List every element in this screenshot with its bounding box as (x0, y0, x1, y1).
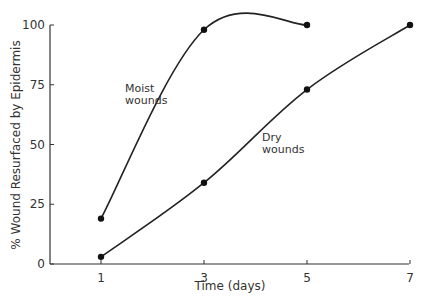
data-point (201, 27, 207, 33)
y-tick-label: 25 (30, 197, 45, 211)
y-tick-label: 100 (22, 18, 45, 32)
y-tick-label: 75 (30, 78, 45, 92)
chart-svg: 0255075100 1357 Time (days) % Wound Resu… (0, 0, 428, 303)
data-point (304, 86, 310, 92)
series (98, 13, 413, 260)
y-tick-label: 0 (37, 257, 45, 271)
data-point (98, 215, 104, 221)
data-point (98, 254, 104, 260)
y-axis-label: % Wound Resurfaced by Epidermis (9, 40, 23, 249)
x-tick-label: 1 (97, 271, 105, 285)
series-line (101, 25, 410, 257)
x-tick-label: 7 (406, 271, 414, 285)
y-ticks: 0255075100 (22, 18, 54, 271)
y-tick-label: 50 (30, 138, 45, 152)
data-point (201, 180, 207, 186)
x-tick-label: 5 (303, 271, 311, 285)
data-point (304, 22, 310, 28)
chart: 0255075100 1357 Time (days) % Wound Resu… (0, 0, 428, 303)
dry-wounds-label: Drywounds (262, 131, 305, 156)
moist-wounds-label: Moistwounds (125, 82, 168, 107)
x-axis-label: Time (days) (194, 279, 266, 293)
data-point (407, 22, 413, 28)
